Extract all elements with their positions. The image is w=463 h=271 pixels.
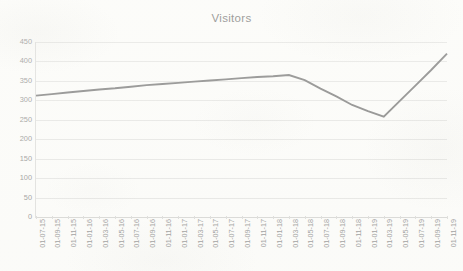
x-tick-mark [210,216,211,219]
y-tick-label-150: 150 [2,155,32,162]
y-tick-label-300: 300 [2,96,32,103]
x-tick-label-01-05-18: 01-05-18 [307,219,314,248]
y-tick-label-400: 400 [2,57,32,64]
x-tick-mark [99,216,100,219]
x-tick-mark [400,216,401,219]
x-tick-label-01-11-16: 01-11-16 [165,219,172,247]
x-tick-label-01-07-15: 01-07-15 [39,219,46,248]
x-tick-mark [431,216,432,219]
x-tick-label-01-09-15: 01-09-15 [54,219,61,248]
x-tick-label-01-07-16: 01-07-16 [133,219,140,248]
chart-title: Visitors [0,12,463,24]
y-tick-label-50: 50 [2,194,32,201]
x-tick-mark [115,216,116,219]
plot-area [36,42,447,217]
x-tick-mark [415,216,416,219]
x-tick-label-01-03-18: 01-03-18 [292,219,299,248]
x-tick-label-01-05-16: 01-05-16 [118,219,125,248]
x-tick-label-01-03-17: 01-03-17 [197,219,204,248]
x-tick-mark [273,216,274,219]
x-tick-mark [83,216,84,219]
x-tick-label-01-11-19: 01-11-19 [450,219,457,247]
x-axis-tick-labels: 01-07-1501-09-1501-11-1501-01-1601-03-16… [36,219,447,271]
y-tick-label-250: 250 [2,116,32,123]
x-tick-mark [368,216,369,219]
y-tick-label-350: 350 [2,77,32,84]
x-tick-label-01-03-16: 01-03-16 [102,219,109,248]
y-tick-label-450: 450 [2,38,32,45]
x-tick-label-01-09-17: 01-09-17 [244,219,251,248]
x-tick-label-01-03-19: 01-03-19 [386,219,393,248]
y-tick-label-100: 100 [2,174,32,181]
x-tick-mark [147,216,148,219]
x-tick-mark [242,216,243,219]
x-tick-mark [321,216,322,219]
x-tick-label-01-07-18: 01-07-18 [323,219,330,248]
visitors-line-chart: Visitors 050100150200250300350400450 01-… [0,0,463,271]
y-tick-label-200: 200 [2,135,32,142]
x-tick-mark [336,216,337,219]
x-tick-label-01-11-18: 01-11-18 [355,219,362,247]
x-tick-label-01-09-16: 01-09-16 [149,219,156,248]
visitors-data-series [36,42,447,217]
x-tick-mark [131,216,132,219]
x-tick-mark [305,216,306,219]
x-tick-label-01-09-19: 01-09-19 [434,219,441,248]
x-tick-mark [352,216,353,219]
x-tick-mark [226,216,227,219]
x-tick-mark [52,216,53,219]
x-tick-mark [36,216,37,219]
y-axis-tick-labels: 050100150200250300350400450 [0,42,32,218]
x-tick-label-01-11-15: 01-11-15 [70,219,77,247]
x-tick-mark [257,216,258,219]
x-tick-label-01-09-18: 01-09-18 [339,219,346,248]
x-tick-label-01-01-17: 01-01-17 [181,219,188,248]
x-tick-mark [447,216,448,219]
x-tick-mark [194,216,195,219]
x-tick-label-01-01-18: 01-01-18 [276,219,283,248]
x-tick-label-01-05-19: 01-05-19 [402,219,409,248]
x-tick-label-01-11-17: 01-11-17 [260,219,267,247]
x-tick-mark [68,216,69,219]
x-tick-label-01-05-17: 01-05-17 [212,219,219,248]
y-tick-label-0: 0 [2,213,32,220]
x-tick-label-01-07-19: 01-07-19 [418,219,425,248]
x-tick-label-01-07-17: 01-07-17 [228,219,235,248]
x-tick-mark [162,216,163,219]
x-tick-label-01-01-16: 01-01-16 [86,219,93,248]
x-tick-mark [384,216,385,219]
x-tick-mark [178,216,179,219]
x-tick-label-01-01-19: 01-01-19 [371,219,378,248]
x-tick-mark [289,216,290,219]
